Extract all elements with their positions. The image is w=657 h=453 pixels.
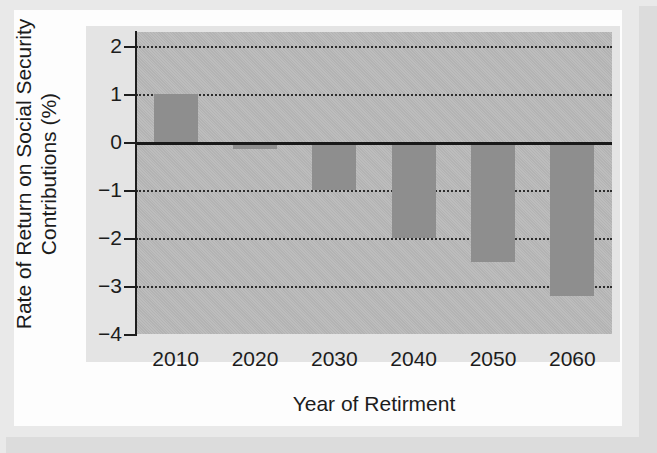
page-border-shadow-bottom [6, 437, 657, 453]
x-tick-label-2030: 2030 [294, 348, 374, 369]
y-axis-line [135, 31, 137, 335]
y-tick-label-2: 2 [78, 35, 122, 56]
y-tick-labels-group: 210−1−2−3−4 [74, 0, 122, 400]
bar-2010[interactable] [154, 94, 198, 142]
x-axis-title: Year of Retirment [136, 392, 612, 416]
zero-baseline [136, 142, 612, 145]
x-tick-labels-group: 201020202030204020502060 [136, 348, 612, 378]
y-tick-neg1 [124, 190, 137, 192]
y-tick-label-0: 0 [78, 131, 122, 152]
gridline-2 [136, 46, 612, 48]
bar-2030[interactable] [312, 142, 356, 190]
bar-2060[interactable] [550, 142, 594, 295]
bar-2050[interactable] [471, 142, 515, 262]
y-axis-title: Rate of Return on Social Security Contri… [12, 4, 64, 344]
bar-2040[interactable] [392, 142, 436, 238]
y-tick-neg2 [124, 238, 137, 240]
gridline-neg3 [136, 286, 612, 288]
y-tick-label-neg1: −1 [78, 179, 122, 200]
y-tick-1 [124, 94, 137, 96]
y-tick-0 [124, 142, 137, 144]
gridline-neg1 [136, 190, 612, 192]
y-tick-neg3 [124, 286, 137, 288]
plot-area [136, 32, 612, 334]
y-tick-2 [124, 46, 137, 48]
y-tick-label-1: 1 [78, 83, 122, 104]
figure-page: 210−1−2−3−4 201020202030204020502060 Yea… [0, 0, 657, 453]
x-tick-label-2050: 2050 [453, 348, 533, 369]
y-axis-title-line-2: Contributions (%) [37, 4, 62, 344]
y-axis-title-line-1: Rate of Return on Social Security [12, 4, 37, 344]
page-border-shadow-right [639, 6, 657, 453]
plot-texture-overlay [136, 32, 612, 334]
y-tick-neg4 [124, 334, 137, 336]
gridline-neg2 [136, 238, 612, 240]
x-tick-label-2040: 2040 [374, 348, 454, 369]
y-tick-label-neg2: −2 [78, 227, 122, 248]
y-tick-label-neg4: −4 [78, 323, 122, 344]
x-tick-label-2020: 2020 [215, 348, 295, 369]
x-tick-label-2010: 2010 [136, 348, 216, 369]
x-tick-label-2060: 2060 [532, 348, 612, 369]
gridline-1 [136, 94, 612, 96]
y-tick-label-neg3: −3 [78, 275, 122, 296]
